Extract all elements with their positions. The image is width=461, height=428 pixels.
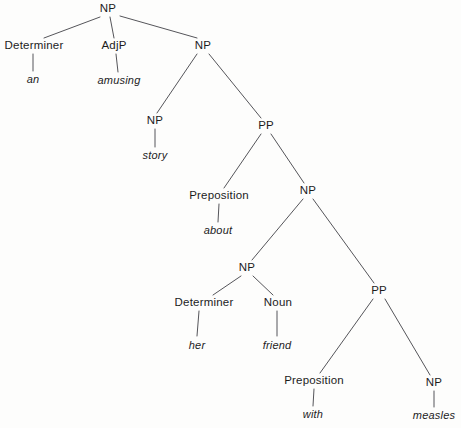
syntax-tree-diagram: NPDetermineranAdjPamusingNPNPstoryPPPrep… (0, 0, 461, 428)
tree-edge (385, 299, 430, 375)
tree-terminal-word-her: her (189, 340, 206, 351)
tree-edge (157, 54, 197, 113)
tree-edge (213, 276, 241, 295)
tree-edge (252, 199, 303, 260)
tree-terminal-word-amusing: amusing (98, 75, 141, 86)
tree-node-det-2: Determiner (175, 297, 234, 309)
tree-terminal-word-an: an (27, 74, 40, 85)
tree-terminal-word-with: with (303, 409, 323, 420)
tree-node-np-root: NP (100, 3, 116, 15)
tree-edge-layer (0, 0, 461, 428)
tree-edge (44, 17, 100, 38)
tree-edge (271, 134, 304, 183)
tree-terminal-word-friend: friend (263, 340, 292, 351)
tree-terminal-word-about: about (204, 225, 233, 236)
tree-node-prep-1: Preposition (189, 190, 249, 202)
tree-node-np-story: NP (147, 115, 163, 127)
tree-edge (224, 134, 261, 188)
tree-node-np-2: NP (195, 40, 211, 52)
tree-node-adjp-1: AdjP (101, 40, 126, 52)
tree-edge (313, 199, 374, 283)
tree-terminal-word-story: story (143, 150, 168, 161)
tree-node-det-1: Determiner (5, 40, 64, 52)
tree-edge (209, 54, 261, 118)
tree-node-np-4: NP (239, 262, 255, 274)
tree-edge (320, 299, 373, 373)
tree-edge (110, 17, 114, 38)
tree-node-pp-2: PP (371, 285, 387, 297)
tree-terminal-word-measles: measles (413, 410, 455, 421)
tree-node-prep-2: Preposition (284, 375, 344, 387)
tree-node-np-5: NP (426, 377, 442, 389)
tree-node-noun-1: Noun (264, 297, 292, 309)
tree-edge (253, 276, 273, 295)
tree-edge (313, 389, 314, 406)
tree-edge (197, 311, 199, 336)
tree-node-pp-1: PP (258, 120, 274, 132)
tree-edge (120, 16, 197, 38)
tree-edge (116, 54, 118, 72)
tree-edge (218, 204, 219, 222)
tree-node-np-3: NP (300, 185, 316, 197)
